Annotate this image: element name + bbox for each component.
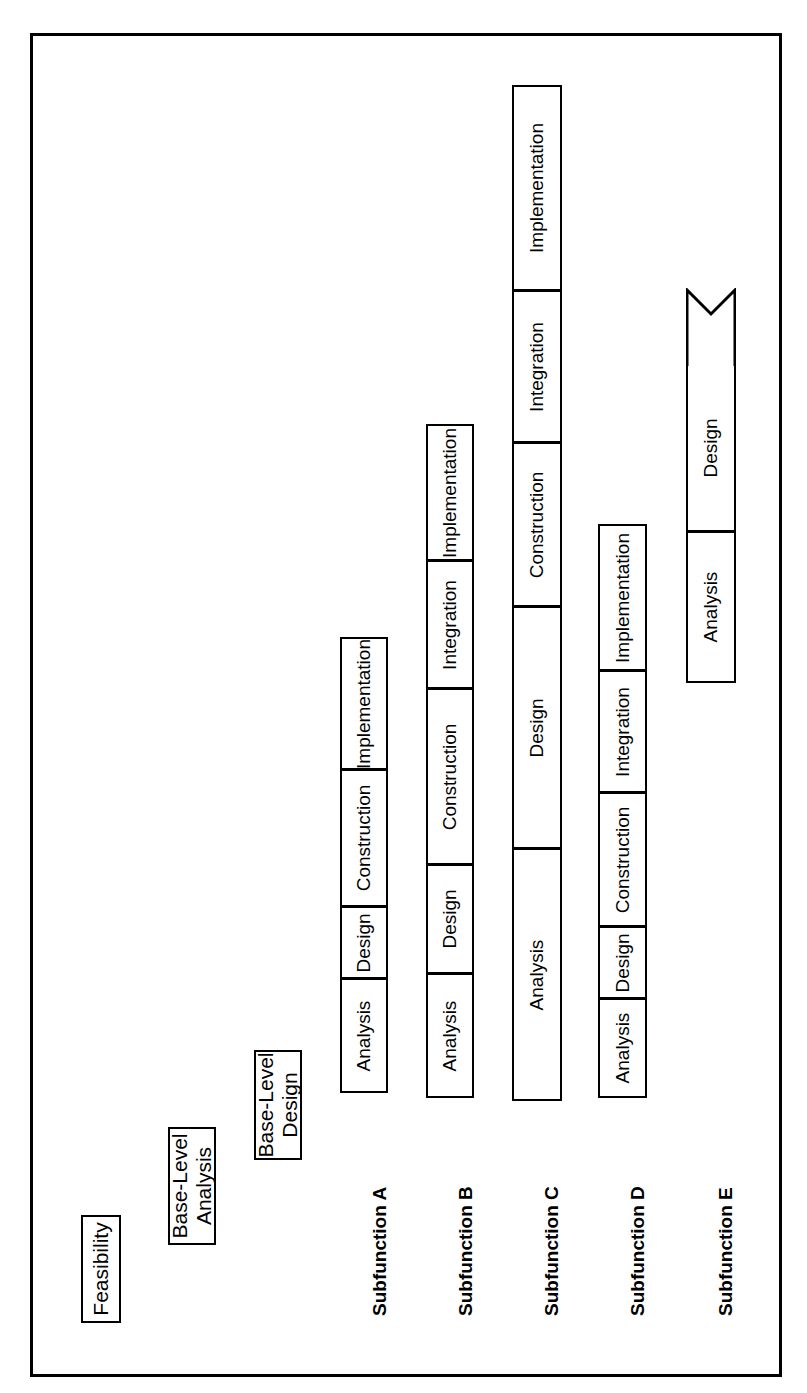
subfunction-b-segment-analysis: Analysis <box>426 973 474 1098</box>
subfunction-b-implementation-label: Implementation <box>439 428 460 558</box>
subfunction-d-segment-design: Design <box>598 926 647 999</box>
subfunction-a-analysis-label: Analysis <box>353 1000 374 1071</box>
subfunction-e-open-end-icon <box>686 288 736 366</box>
subfunction-d-design-label: Design <box>612 933 633 992</box>
subfunction-a-segment-analysis: Analysis <box>340 978 388 1093</box>
subfunction-d-row-label: Subfunction D <box>627 1186 649 1316</box>
subfunction-b-segment-design: Design <box>426 864 474 974</box>
subfunction-c-segment-design: Design <box>512 606 562 849</box>
subfunction-b-design-label: Design <box>439 889 460 948</box>
subfunction-c-implementation-label: Implementation <box>526 123 547 253</box>
subfunction-d-segment-analysis: Analysis <box>598 998 647 1098</box>
subfunction-a-segment-implementation: Implementation <box>340 637 388 770</box>
diagram-frame: Feasibility Base-Level Analysis Base-Lev… <box>30 33 782 1377</box>
subfunction-e-design-label: Design <box>700 418 721 477</box>
subfunction-b-construction-label: Construction <box>439 723 460 830</box>
subfunction-d-implementation-label: Implementation <box>612 533 633 663</box>
subfunction-d-segment-implementation: Implementation <box>598 524 647 671</box>
milestone-base-level-design-label: Base-Level Design <box>254 1052 301 1157</box>
subfunction-e-analysis-label: Analysis <box>700 572 721 643</box>
subfunction-c-segment-integration: Integration <box>512 290 562 443</box>
subfunction-c-segment-construction: Construction <box>512 442 562 607</box>
subfunction-c-design-label: Design <box>526 698 547 757</box>
subfunction-a-implementation-label: Implementation <box>353 639 374 769</box>
milestone-feasibility: Feasibility <box>81 1215 121 1323</box>
subfunction-c-row-label: Subfunction C <box>541 1186 563 1316</box>
subfunction-e-segment-analysis: Analysis <box>686 531 736 683</box>
milestone-base-level-design: Base-Level Design <box>254 1050 302 1160</box>
milestone-base-level-analysis: Base-Level Analysis <box>168 1127 216 1245</box>
subfunction-d-integration-label: Integration <box>612 687 633 777</box>
milestone-feasibility-label: Feasibility <box>89 1222 113 1315</box>
subfunction-b-segment-construction: Construction <box>426 688 474 865</box>
milestone-base-level-analysis-label: Base-Level Analysis <box>168 1133 215 1238</box>
subfunction-c-analysis-label: Analysis <box>526 939 547 1010</box>
subfunction-d-segment-construction: Construction <box>598 792 647 927</box>
subfunction-b-row-label: Subfunction B <box>455 1186 477 1316</box>
subfunction-c-segment-implementation: Implementation <box>512 85 562 291</box>
subfunction-c-segment-analysis: Analysis <box>512 848 562 1101</box>
diagram-page: Feasibility Base-Level Analysis Base-Lev… <box>0 0 807 1393</box>
subfunction-e-segment-design: Design <box>686 364 736 532</box>
subfunction-c-integration-label: Integration <box>526 322 547 412</box>
subfunction-a-segment-design: Design <box>340 906 388 979</box>
subfunction-d-analysis-label: Analysis <box>612 1013 633 1084</box>
subfunction-c-construction-label: Construction <box>526 471 547 578</box>
subfunction-a-design-label: Design <box>353 913 374 972</box>
subfunction-b-segment-integration: Integration <box>426 560 474 689</box>
subfunction-a-construction-label: Construction <box>353 785 374 892</box>
subfunction-d-construction-label: Construction <box>612 806 633 913</box>
subfunction-b-segment-implementation: Implementation <box>426 424 474 561</box>
subfunction-b-integration-label: Integration <box>439 580 460 670</box>
subfunction-a-row-label: Subfunction A <box>369 1187 391 1316</box>
subfunction-e-row-label: Subfunction E <box>715 1187 737 1316</box>
subfunction-d-segment-integration: Integration <box>598 670 647 793</box>
subfunction-b-analysis-label: Analysis <box>439 1000 460 1071</box>
subfunction-a-segment-construction: Construction <box>340 769 388 907</box>
